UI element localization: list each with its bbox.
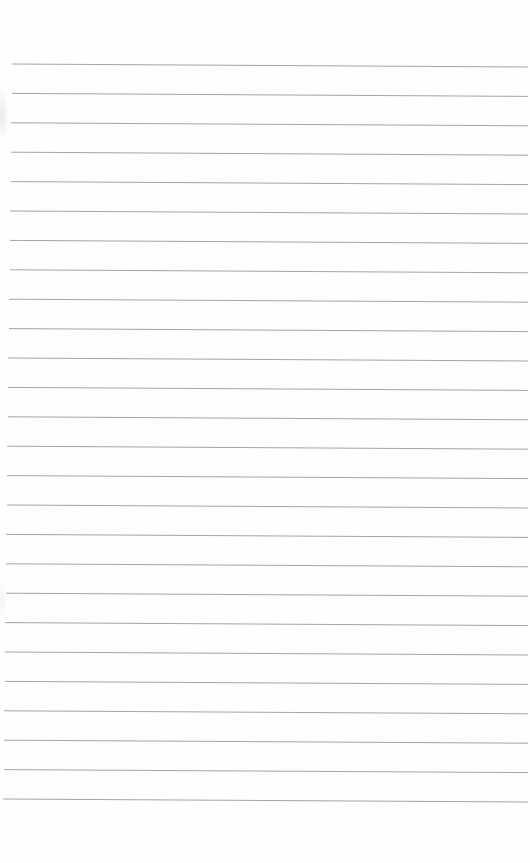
ruled-line (4, 711, 528, 714)
ruled-line (12, 93, 528, 96)
ruled-line (8, 358, 528, 361)
ruled-line (6, 534, 528, 537)
ruled-line (3, 799, 528, 802)
ruled-line (10, 240, 528, 243)
lined-paper-page (0, 0, 530, 863)
ruled-line (9, 329, 528, 332)
ruled-line (12, 64, 528, 67)
ruled-line (10, 211, 528, 214)
ruled-line (7, 476, 528, 479)
ruled-line (9, 299, 528, 302)
ruled-line (6, 593, 528, 596)
ruled-line (10, 270, 528, 273)
ruled-line (5, 623, 528, 626)
ruled-line (8, 417, 528, 420)
ruled-line (11, 182, 528, 185)
ruled-line (4, 740, 528, 743)
ruled-line (8, 387, 528, 390)
ruled-line (5, 681, 528, 684)
ruled-lines (0, 0, 530, 863)
ruled-line (11, 123, 528, 126)
ruled-line (7, 446, 528, 449)
ruled-line (5, 652, 528, 655)
ruled-line (6, 564, 528, 567)
ruled-line (4, 770, 528, 773)
ruled-line (11, 152, 528, 155)
ruled-line (7, 505, 528, 508)
